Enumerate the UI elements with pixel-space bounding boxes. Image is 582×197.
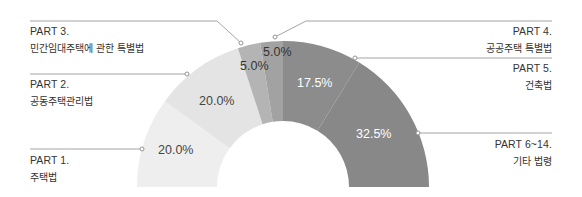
legend-part-3-title: 민간임대주택에 관한 특별법 xyxy=(30,40,144,57)
legend-part-2: PART 2. 공동주택관리법 xyxy=(30,76,93,110)
leader-dot-part-2 xyxy=(185,72,189,76)
legend-part-4: PART 4. 공공주택 특별법 xyxy=(486,23,552,57)
value-label-part-5: 17.5% xyxy=(297,76,332,90)
chart-slices xyxy=(137,41,429,187)
legend-part-2-title: 공동주택관리법 xyxy=(30,93,93,110)
legend-part-5-title: 건축법 xyxy=(513,77,552,94)
legend-part-2-number: PART 2. xyxy=(30,76,93,93)
legend-part-1: PART 1. 주택법 xyxy=(30,152,69,186)
leader-dot-part-1 xyxy=(140,147,144,151)
leader-dot-part-3 xyxy=(239,41,243,45)
legend-part-5-number: PART 5. xyxy=(513,60,552,77)
leader-dot-part-6-14 xyxy=(416,131,420,135)
legend-part-4-number: PART 4. xyxy=(486,23,552,40)
legend-part-6-14-title: 기타 법령 xyxy=(495,153,552,170)
leader-dot-part-4 xyxy=(273,35,277,39)
legend-part-1-number: PART 1. xyxy=(30,152,69,169)
legend-part-6-14-number: PART 6~14. xyxy=(495,136,552,153)
value-label-part-4: 5.0% xyxy=(263,45,292,59)
legend-part-3-number: PART 3. xyxy=(30,23,144,40)
legend-part-5: PART 5. 건축법 xyxy=(513,60,552,94)
legend-part-6-14: PART 6~14. 기타 법령 xyxy=(495,136,552,170)
value-label-part-3: 5.0% xyxy=(240,59,269,73)
value-label-part-2: 20.0% xyxy=(199,94,234,108)
legend-part-4-title: 공공주택 특별법 xyxy=(486,40,552,57)
value-label-part-1: 20.0% xyxy=(158,143,193,157)
legend-part-3: PART 3. 민간임대주택에 관한 특별법 xyxy=(30,23,144,57)
legend-part-1-title: 주택법 xyxy=(30,169,69,186)
leader-dot-part-5 xyxy=(353,56,357,60)
value-label-part-6-14: 32.5% xyxy=(356,127,391,141)
